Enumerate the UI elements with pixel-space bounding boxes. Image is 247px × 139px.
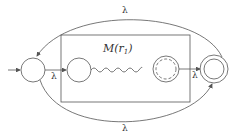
start-state <box>21 58 45 82</box>
edge-label-top: λ <box>122 5 128 15</box>
sub-automaton-label: M(r1) <box>102 42 133 56</box>
edge-label-bottom: λ <box>122 123 128 133</box>
edge-label-start-inner: λ <box>51 71 57 81</box>
sub-automaton-box <box>61 35 190 102</box>
nfa-diagram: M(r1) λ λ λ λ <box>0 0 247 139</box>
inner-start-state <box>67 58 91 82</box>
inner-final-dashed-ring <box>156 59 176 79</box>
final-state-inner-ring <box>204 59 224 79</box>
edge-bypass-bottom <box>40 80 212 122</box>
edge-label-inner-final: λ <box>192 70 198 80</box>
inner-final-state <box>153 56 179 82</box>
wavy-path <box>91 67 142 72</box>
